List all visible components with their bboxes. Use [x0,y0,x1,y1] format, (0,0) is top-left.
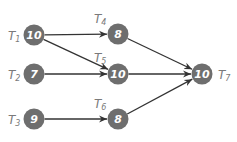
node-t4: 8 [108,24,129,45]
edge-t1-t4 [44,34,107,35]
node-weight: 9 [30,113,38,126]
task-graph-diagram: 1079810810 T1T2T3T4T5T6T7 [0,0,237,142]
task-label-t3: T3 [8,113,20,128]
node-t7: 10 [192,64,213,85]
task-label-t7: T7 [218,68,231,83]
node-weight: 7 [30,68,38,81]
task-label-t4: T4 [94,12,106,27]
task-label-t1: T1 [8,29,20,44]
edge-t4-t7 [127,39,192,70]
nodes-layer: 1079810810 [24,24,213,130]
node-weight: 8 [114,28,122,41]
edge-t6-t7 [127,79,192,114]
node-weight: 10 [194,68,210,81]
node-t5: 10 [108,64,129,85]
task-label-t2: T2 [8,68,20,83]
task-label-t6: T6 [94,97,106,112]
node-t3: 9 [24,109,45,130]
node-t2: 7 [24,64,45,85]
node-weight: 10 [26,29,42,42]
node-t6: 8 [108,109,129,130]
node-t1: 10 [24,25,45,46]
graph-svg: 1079810810 T1T2T3T4T5T6T7 [0,0,237,142]
task-label-t5: T5 [94,51,106,66]
node-weight: 10 [110,68,126,81]
node-weight: 8 [114,113,122,126]
